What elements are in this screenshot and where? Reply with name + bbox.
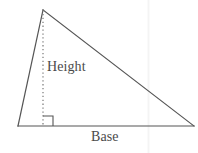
triangle-left-side [18,10,43,126]
base-label: Base [91,130,119,144]
right-angle-marker [43,116,53,126]
triangle-diagram: Height Base [0,0,198,153]
height-label: Height [47,60,86,74]
